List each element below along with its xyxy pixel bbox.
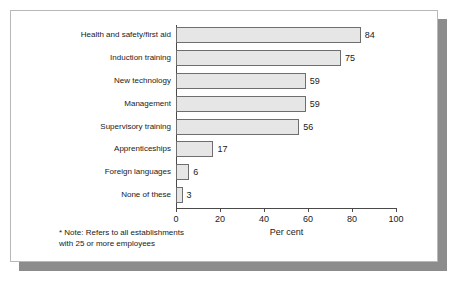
x-tick-mark: [396, 208, 397, 212]
category-label: Foreign languages: [105, 164, 171, 180]
bar: [176, 50, 341, 66]
x-tick-label: 100: [376, 214, 416, 225]
bar-row: Management 59: [176, 94, 397, 117]
footnote-line: * Note: Refers to all establishments: [59, 227, 259, 238]
bar-row: Health and safety/first aid 84: [176, 25, 397, 48]
bar-value-label: 59: [306, 73, 320, 89]
category-label: Supervisory training: [100, 119, 171, 135]
footnote: * Note: Refers to all establishments wit…: [59, 227, 259, 249]
bar: [176, 96, 306, 112]
plot-area: 0 20 40 60 80 100 Health and safety/firs…: [11, 11, 439, 263]
x-tick-mark: [176, 208, 177, 212]
bar-value-label: 75: [341, 50, 355, 66]
x-tick-label: 80: [332, 214, 372, 225]
category-label: Induction training: [110, 50, 171, 66]
x-tick-mark: [352, 208, 353, 212]
x-tick-label: 60: [288, 214, 328, 225]
bar-value-label: 3: [183, 187, 192, 203]
bar: [176, 187, 183, 203]
x-tick-label: 20: [200, 214, 240, 225]
category-label: Health and safety/first aid: [81, 27, 171, 43]
bar-row: Foreign languages 6: [176, 162, 397, 185]
x-tick-mark: [220, 208, 221, 212]
bar: [176, 27, 361, 43]
category-label: None of these: [121, 187, 171, 203]
bar-rows: Health and safety/first aid 84 Induction…: [176, 25, 397, 208]
footnote-line: with 25 or more employees: [59, 238, 259, 249]
bar-value-label: 84: [361, 27, 375, 43]
x-tick-mark: [308, 208, 309, 212]
bar-value-label: 17: [213, 141, 227, 157]
bar: [176, 141, 213, 157]
category-label: Apprenticeships: [114, 141, 171, 157]
bar: [176, 119, 299, 135]
x-tick-label: 40: [244, 214, 284, 225]
bar-row: New technology 59: [176, 71, 397, 94]
bar-row: None of these 3: [176, 185, 397, 208]
chart-card: 0 20 40 60 80 100 Health and safety/firs…: [10, 10, 438, 262]
x-tick-label: 0: [156, 214, 196, 225]
bar-value-label: 59: [306, 96, 320, 112]
chart-screenshot: 0 20 40 60 80 100 Health and safety/firs…: [0, 0, 464, 285]
bar-value-label: 56: [299, 119, 313, 135]
x-axis-line: [176, 208, 397, 209]
bar-row: Induction training 75: [176, 48, 397, 71]
category-label: Management: [124, 96, 171, 112]
bar-row: Supervisory training 56: [176, 117, 397, 140]
x-tick-mark: [264, 208, 265, 212]
bar: [176, 164, 189, 180]
bar-row: Apprenticeships 17: [176, 139, 397, 162]
bar: [176, 73, 306, 89]
category-label: New technology: [114, 73, 171, 89]
bar-value-label: 6: [189, 164, 198, 180]
